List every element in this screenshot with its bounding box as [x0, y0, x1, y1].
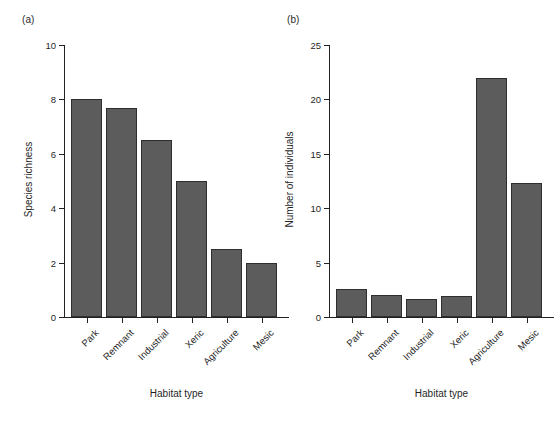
x-axis-tick	[352, 318, 353, 323]
x-axis-tick	[457, 318, 458, 323]
bar	[406, 299, 437, 317]
y-axis-title: Species richness	[23, 80, 34, 280]
y-axis-tick	[324, 208, 329, 209]
bar	[176, 181, 207, 317]
y-axis-tick	[324, 154, 329, 155]
y-axis-tick	[59, 208, 64, 209]
y-axis-title: Number of individuals	[284, 80, 295, 280]
bar	[71, 99, 102, 317]
x-axis-tick	[227, 318, 228, 323]
x-axis-tick	[157, 318, 158, 323]
x-axis-tick	[192, 318, 193, 323]
bar	[371, 295, 402, 317]
y-axis-tick	[59, 263, 64, 264]
bar	[336, 289, 367, 317]
x-axis-tick	[527, 318, 528, 323]
y-axis-line	[329, 45, 330, 317]
bar	[511, 183, 542, 317]
x-axis-tick	[492, 318, 493, 323]
bar	[141, 140, 172, 317]
y-axis-tick	[59, 154, 64, 155]
x-axis-tick	[87, 318, 88, 323]
panel-a-species-richness: (a) 0246810ParkRemnantIndustrialXericAgr…	[0, 0, 265, 421]
y-axis-tick-label: 10	[24, 40, 56, 51]
y-axis-tick-label: 0	[289, 312, 321, 323]
x-axis-tick	[262, 318, 263, 323]
x-axis-line	[329, 317, 554, 318]
x-axis-tick	[422, 318, 423, 323]
x-axis-tick	[122, 318, 123, 323]
plot-area-b: 0510152025ParkRemnantIndustrialXericAgri…	[265, 0, 530, 421]
plot-area-a: 0246810ParkRemnantIndustrialXericAgricul…	[0, 0, 265, 421]
x-axis-tick	[387, 318, 388, 323]
y-axis-tick	[324, 45, 329, 46]
y-axis-tick	[59, 45, 64, 46]
bar	[441, 296, 472, 317]
panel-b-number-of-individuals: (b) 0510152025ParkRemnantIndustrialXeric…	[265, 0, 530, 421]
y-axis-tick-label: 0	[24, 312, 56, 323]
y-axis-line	[64, 45, 65, 317]
y-axis-tick	[59, 99, 64, 100]
y-axis-tick	[324, 263, 329, 264]
bar	[106, 108, 137, 317]
bar	[476, 78, 507, 317]
y-axis-tick	[324, 99, 329, 100]
x-axis-title: Habitat type	[64, 388, 289, 399]
x-axis-line	[64, 317, 289, 318]
x-axis-title: Habitat type	[329, 388, 554, 399]
y-axis-tick-label: 25	[289, 40, 321, 51]
bar	[211, 249, 242, 317]
